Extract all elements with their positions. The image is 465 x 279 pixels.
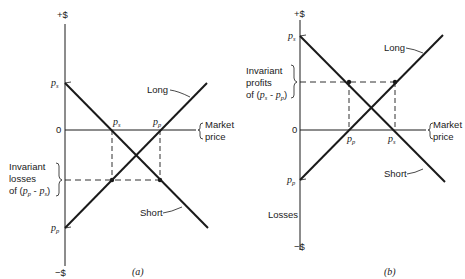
long-point — [393, 80, 397, 84]
y-tick-pp: pp — [50, 222, 60, 234]
x-tick-pp: pp — [346, 133, 356, 145]
long-label: Long — [147, 84, 168, 95]
market-label-line1: Market — [433, 119, 462, 130]
market-price-brace — [198, 123, 203, 139]
short-label: Short — [140, 207, 163, 218]
y-axis-top-label: +$ — [57, 9, 69, 20]
x-tick-ps: ps — [112, 116, 121, 128]
market-label-line2: price — [433, 131, 454, 142]
market-label-line1: Market — [205, 119, 234, 130]
long-label: Long — [384, 42, 405, 53]
zero-label: 0 — [56, 124, 61, 135]
short-line — [300, 36, 445, 182]
long-point — [110, 178, 114, 182]
invariant-losses-brace — [56, 163, 62, 196]
short-label: Short — [384, 168, 407, 179]
y-axis-bottom-label: −$ — [294, 241, 306, 252]
zero-label: 0 — [292, 124, 297, 135]
market-label-line2: price — [205, 131, 226, 142]
invariant-losses-line2: losses — [9, 173, 36, 184]
invariant-losses-line3: of (pp - ps) — [9, 185, 50, 197]
y-axis-top-label: +$ — [294, 8, 306, 19]
x-tick-pp: pp — [152, 116, 162, 128]
x-tick-ps: ps — [387, 133, 396, 145]
long-leader — [170, 90, 190, 97]
invariant-profits-line1: Invariant — [246, 65, 283, 76]
diagram-canvas: +$ −$ 0 Market price ps pp ps pp Long Sh… — [0, 0, 465, 279]
y-axis-bottom-label: −$ — [55, 267, 67, 278]
long-leader — [406, 48, 423, 53]
invariant-losses-line1: Invariant — [9, 161, 46, 172]
invariant-profits-brace — [291, 65, 297, 98]
y-tick-ps: ps — [287, 30, 296, 42]
y-tick-ps: ps — [50, 77, 59, 89]
panel-b: +$ −$ 0 Market price ps pp pp ps Long Sh… — [246, 8, 462, 278]
short-point — [158, 178, 162, 182]
caption-b: (b) — [384, 266, 396, 278]
losses-label: Losses — [268, 209, 298, 220]
invariant-profits-line3: of (ps - pp) — [246, 89, 287, 101]
short-point — [347, 80, 351, 84]
y-tick-pp: pp — [286, 174, 296, 186]
invariant-profits-line2: profits — [246, 77, 272, 88]
short-leader — [163, 207, 182, 213]
caption-a: (a) — [132, 266, 144, 278]
short-leader — [407, 169, 423, 174]
panel-a: +$ −$ 0 Market price ps pp ps pp Long Sh… — [9, 9, 234, 278]
